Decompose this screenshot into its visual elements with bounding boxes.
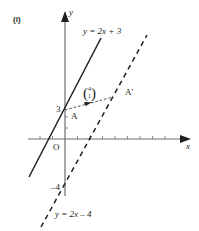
part-label: (i)	[13, 16, 21, 24]
y-intercept-minus-4: –4	[51, 183, 60, 192]
translation-vector: ( 4 1 )	[83, 85, 96, 101]
origin-label: O	[53, 143, 60, 152]
point-a-label: A	[71, 112, 78, 121]
y-intercept-3: 3	[56, 105, 61, 114]
equation-label-lower: y = 2x – 4	[55, 210, 92, 219]
vector-right-paren: )	[91, 86, 96, 101]
equation-label-upper: y = 2x + 3	[83, 27, 121, 36]
y-axis-arrow-icon	[61, 11, 69, 22]
line-y-2x-minus-4	[41, 35, 147, 227]
y-axis-label: y	[69, 8, 73, 17]
point-a-prime-label: A'	[125, 88, 133, 97]
translation-arrowhead-icon	[84, 102, 92, 106]
x-axis-label: x	[186, 142, 190, 151]
